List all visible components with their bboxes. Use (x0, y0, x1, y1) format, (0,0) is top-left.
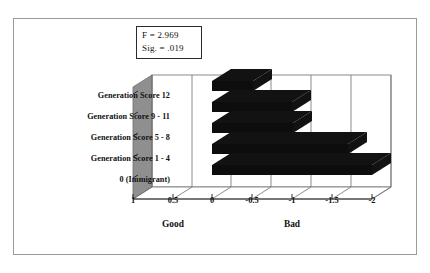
category-label-generation-score-9-11: Generation Score 9 - 11 (2, 112, 170, 121)
x-tick-0p5: 0.5 (168, 196, 178, 205)
chart-figure: F = 2.969 Sig. = .019 Generation Score 1… (0, 0, 430, 273)
x-tick-neg1: -1 (289, 196, 296, 205)
x-tick-neg0p5: -0.5 (245, 196, 258, 205)
category-label-generation-score-1-4: Generation Score 1 - 4 (2, 154, 170, 163)
bar-generation-score-9-11 (212, 90, 311, 112)
x-axis-tick-labels: 1 0.5 0 -0.5 -1 -1.5 -2 (0, 196, 430, 210)
axis-direction-captions: Good Bad (0, 219, 430, 235)
x-tick-0: 0 (210, 196, 214, 205)
category-label-generation-score-5-8: Generation Score 5 - 8 (2, 133, 170, 142)
caption-bad: Bad (284, 219, 300, 229)
bar-generation-score-1-4 (212, 132, 367, 154)
caption-good: Good (162, 219, 184, 229)
category-label-0-immigrant: 0 (Immigrant) (2, 175, 170, 184)
category-label-generation-score-12: Generation Score 12 (2, 91, 170, 100)
x-tick-neg1p5: -1.5 (325, 196, 338, 205)
x-tick-neg2: -2 (369, 196, 376, 205)
bar-0-immigrant (212, 153, 391, 175)
x-tick-1: 1 (131, 196, 135, 205)
bar-generation-score-5-8 (212, 111, 312, 133)
